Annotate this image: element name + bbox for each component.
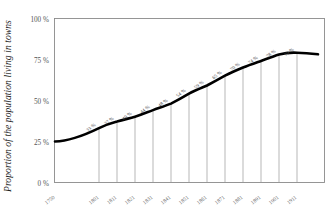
y-tick-label: 25 %: [34, 139, 49, 147]
y-tick-label: 0 %: [38, 180, 49, 188]
chart-background: [0, 0, 332, 223]
y-tick-label: 75 %: [34, 57, 49, 65]
y-axis-title: Proportion of the population living in t…: [3, 20, 13, 193]
y-tick-label: 50 %: [34, 98, 49, 106]
chart-page: Proportion of the population living in t…: [0, 0, 332, 223]
y-tick-label: 100 %: [30, 16, 49, 24]
urbanization-line-chart: Proportion of the population living in t…: [0, 0, 332, 223]
